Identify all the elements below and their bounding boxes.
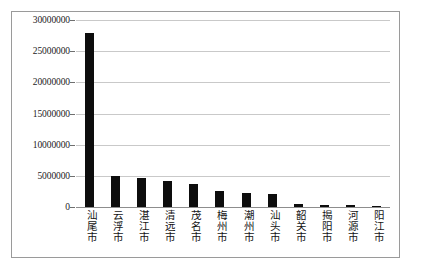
y-axis-tick-label: 20000000 <box>33 77 70 87</box>
x-axis: 汕尾市云浮市湛江市清远市茂名市梅州市潮州市汕头市韶关市揭阳市河源市阳江市 <box>76 210 390 256</box>
y-axis-tick-label: 15000000 <box>33 109 70 119</box>
x-axis-tick-label: 清远市 <box>161 210 175 243</box>
x-axis-tick-label: 河源市 <box>344 210 358 243</box>
x-axis-tick-label: 韶关市 <box>291 210 305 243</box>
x-axis-tick-label: 云浮市 <box>108 210 122 243</box>
y-axis-tick-label: 30000000 <box>33 15 70 25</box>
y-axis-tick-mark <box>70 176 75 177</box>
y-axis-tick-mark <box>70 51 75 52</box>
gridline <box>76 51 390 52</box>
x-axis-tick-label: 湛江市 <box>134 210 148 243</box>
bar <box>189 184 198 207</box>
y-axis-tick-mark <box>70 207 75 208</box>
bar <box>163 181 172 207</box>
bar <box>268 194 277 207</box>
bar <box>346 205 355 207</box>
y-axis-tick-mark <box>70 82 75 83</box>
y-axis-tick-mark <box>70 145 75 146</box>
bar <box>294 204 303 207</box>
y-axis-tick-mark <box>70 114 75 115</box>
y-axis-tick-mark <box>70 20 75 21</box>
gridline <box>76 114 390 115</box>
bar <box>137 178 146 207</box>
x-axis-tick-label: 茂名市 <box>187 210 201 243</box>
chart-figure: 0500000010000000150000002000000025000000… <box>0 0 423 273</box>
bar <box>372 206 381 207</box>
x-axis-tick-label: 汕尾市 <box>82 210 96 243</box>
bar <box>242 193 251 207</box>
x-axis-baseline <box>76 207 390 208</box>
x-axis-tick-label: 汕头市 <box>265 210 279 243</box>
gridline <box>76 145 390 146</box>
bar <box>320 205 329 207</box>
y-axis-tick-label: 5000000 <box>37 171 70 181</box>
gridline <box>76 82 390 83</box>
bar <box>85 33 94 207</box>
x-axis-tick-label: 潮州市 <box>239 210 253 243</box>
plot-area <box>76 20 390 207</box>
bar <box>111 176 120 207</box>
y-axis: 0500000010000000150000002000000025000000… <box>0 20 70 207</box>
gridline <box>76 176 390 177</box>
x-axis-tick-label: 揭阳市 <box>318 210 332 243</box>
x-axis-tick-label: 阳江市 <box>370 210 384 243</box>
gridline <box>76 20 390 21</box>
x-axis-tick-label: 梅州市 <box>213 210 227 243</box>
y-axis-tick-label: 10000000 <box>33 140 70 150</box>
y-axis-tick-label: 25000000 <box>33 46 70 56</box>
bar <box>215 191 224 207</box>
